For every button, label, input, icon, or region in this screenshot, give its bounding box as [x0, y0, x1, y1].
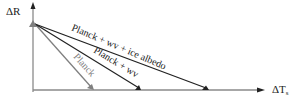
- planck-arrow-icon: [87, 84, 94, 90]
- planck-wv-ice-arrow-icon: [202, 86, 209, 91]
- y-axis-label: ΔR: [6, 5, 21, 17]
- feedback-diagram: ΔR ΔTs Planck + wv + ice albedo Planck +…: [0, 0, 302, 97]
- diagram-canvas: ΔR ΔTs Planck + wv + ice albedo Planck +…: [0, 0, 302, 97]
- y-axis-arrow-icon: [31, 2, 36, 9]
- planck-label: Planck: [72, 51, 98, 79]
- planck-wv-ice-line: [35, 24, 206, 88]
- x-axis-arrow-icon: [257, 88, 265, 93]
- origin-marker-icon: [29, 20, 37, 27]
- x-axis-label: ΔTs: [272, 83, 289, 97]
